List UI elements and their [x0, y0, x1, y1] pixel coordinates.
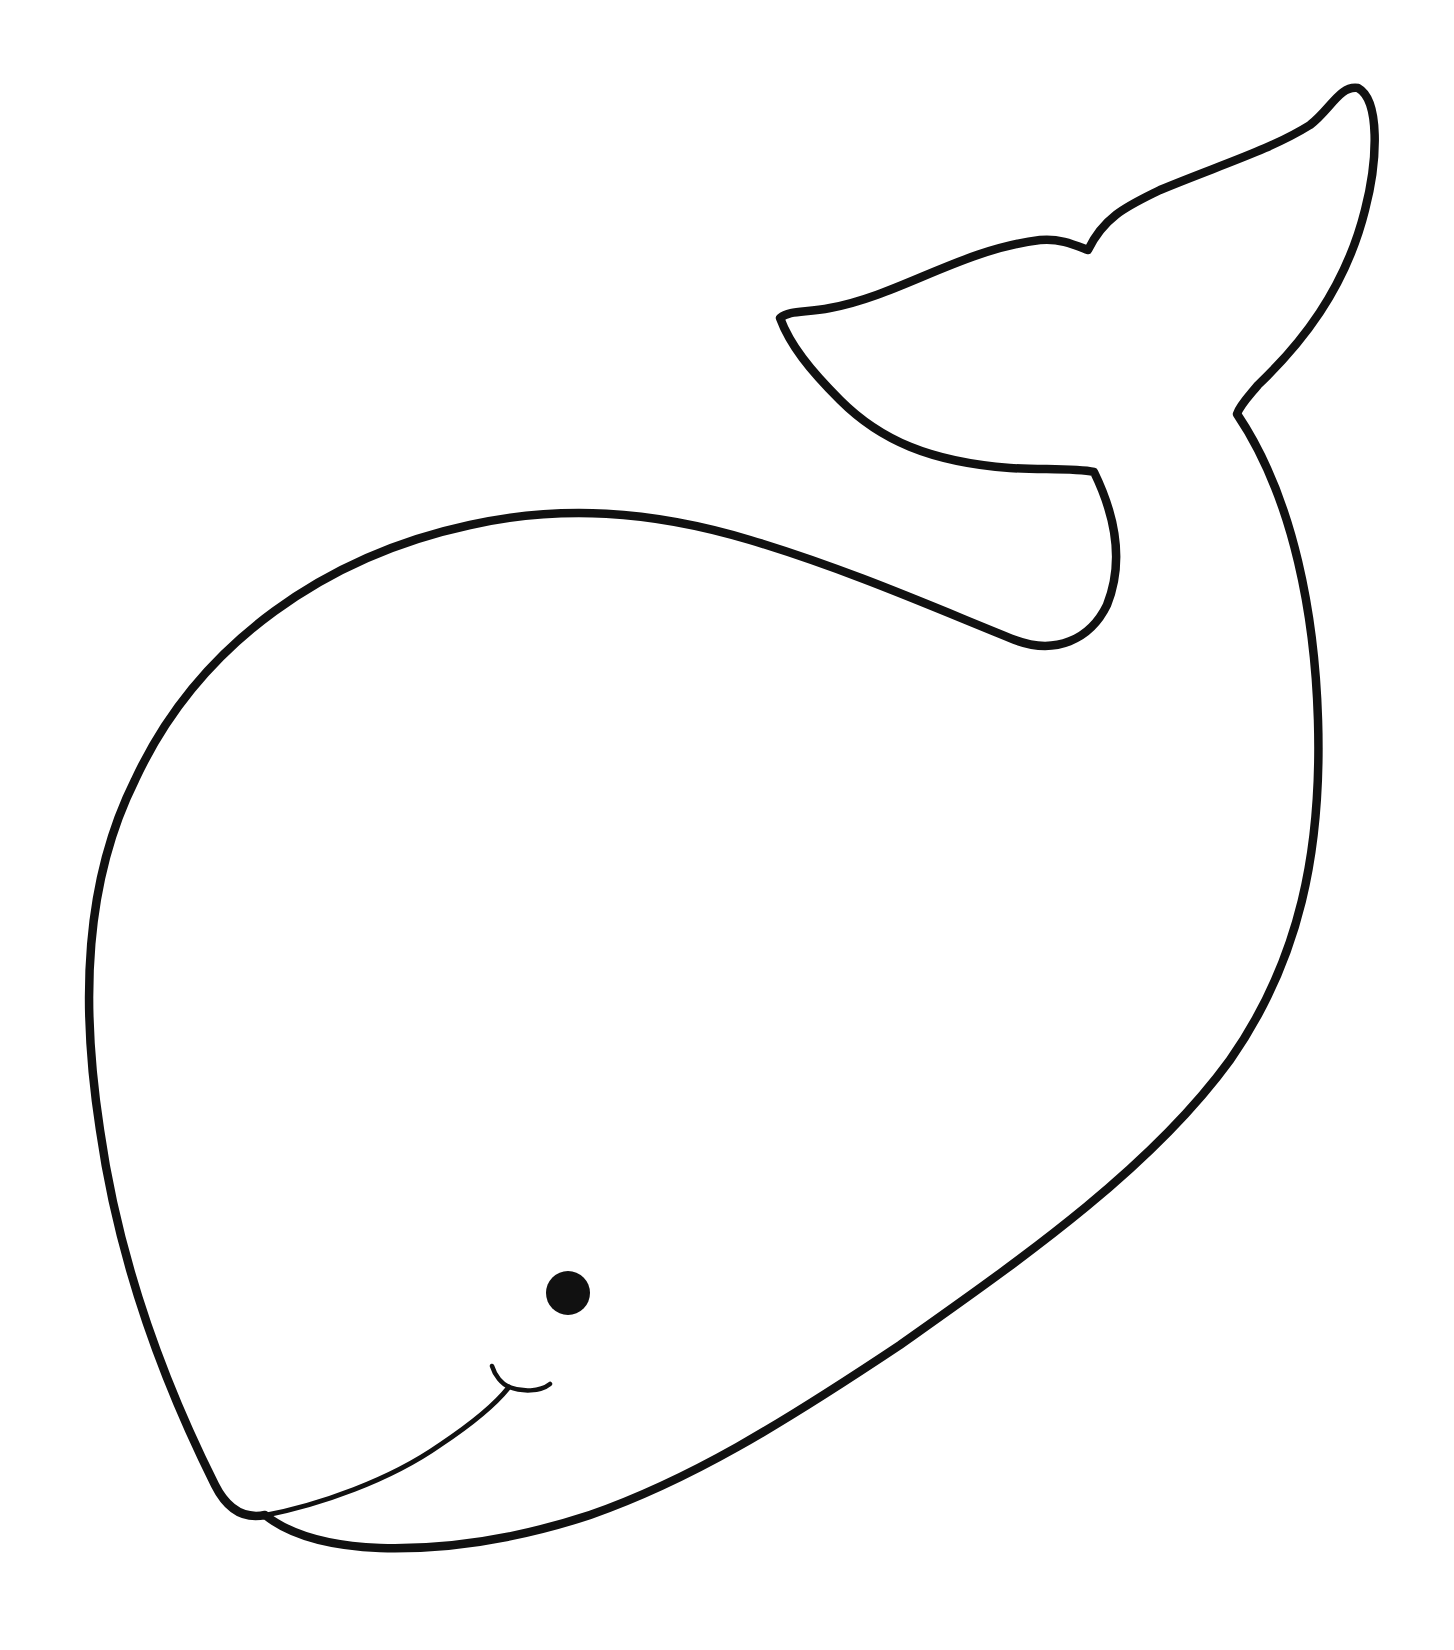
whale-drawing — [0, 0, 1454, 1650]
whale-eye — [546, 1271, 590, 1315]
coloring-page-canvas: whale — [0, 0, 1454, 1650]
whale-body-outline — [89, 88, 1375, 1548]
